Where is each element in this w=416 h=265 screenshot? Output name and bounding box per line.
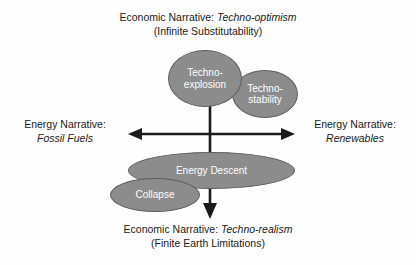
arrowhead-left-icon (128, 128, 142, 140)
node-collapse[interactable]: Collapse (110, 178, 200, 212)
label-top-line1-emphasis: Techno-optimism (217, 11, 297, 23)
label-right-line1: Energy Narrative: (314, 118, 396, 130)
diagram-canvas: Techno- explosion Techno- stability Ener… (0, 0, 416, 265)
label-left-line1: Energy Narrative: (24, 118, 106, 130)
label-bottom-line2: (Finite Earth Limitations) (0, 236, 416, 250)
label-bottom-line1-emphasis: Techno-realism (221, 223, 292, 235)
arrowhead-down-icon (203, 203, 217, 219)
node-techno-explosion-label: Techno- explosion (184, 67, 226, 90)
label-bottom-line1-prefix: Economic Narrative: (124, 223, 221, 235)
label-right-energy-narrative: Energy Narrative: Renewables (296, 117, 414, 145)
label-right-line2-emphasis: Renewables (296, 131, 414, 145)
arrowhead-right-icon (281, 128, 295, 140)
node-collapse-label: Collapse (136, 189, 175, 201)
node-techno-explosion[interactable]: Techno- explosion (168, 50, 242, 107)
node-techno-stability-label: Techno- stability (247, 83, 283, 106)
label-left-line2-emphasis: Fossil Fuels (4, 131, 126, 145)
label-top-line2: (Infinite Substitutability) (0, 24, 416, 38)
label-top-economic-narrative: Economic Narrative: Techno-optimism (Inf… (0, 10, 416, 38)
label-top-line1-prefix: Economic Narrative: (119, 11, 216, 23)
label-bottom-economic-narrative: Economic Narrative: Techno-realism (Fini… (0, 222, 416, 250)
horizontal-axis-arrow (128, 128, 295, 140)
label-left-energy-narrative: Energy Narrative: Fossil Fuels (4, 117, 126, 145)
node-energy-descent-label: Energy Descent (176, 165, 247, 177)
